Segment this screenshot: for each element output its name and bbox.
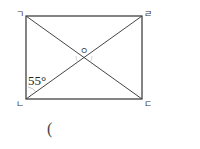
vertex-label-top-right: ㄹ	[144, 10, 152, 19]
answer-blank: (	[47, 121, 52, 137]
vertex-label-bottom-left: ㄴ	[16, 100, 24, 109]
center-arc	[76, 56, 78, 62]
center-label: ㅇ	[80, 47, 88, 56]
angle-label: 55°	[28, 74, 46, 87]
vertex-label-bottom-right: ㄷ	[144, 100, 152, 109]
center-arc-2	[90, 56, 92, 62]
vertex-label-top-left: ㄱ	[16, 10, 24, 19]
